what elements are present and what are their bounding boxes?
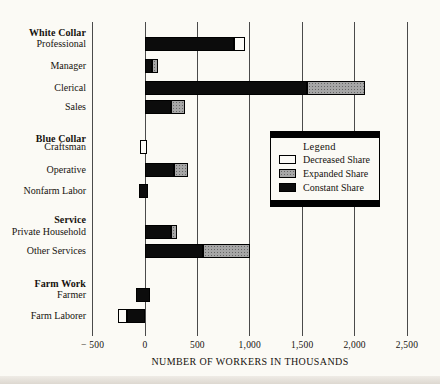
legend-item-expanded: Expanded Share	[279, 167, 379, 180]
bar-segment-constant	[127, 309, 145, 323]
gridline-1000	[249, 22, 250, 336]
legend: Legend Decreased ShareExpanded ShareCons…	[270, 131, 380, 207]
row-label: Sales	[0, 100, 86, 114]
row-label: Craftsman	[0, 140, 86, 154]
row-label: Nonfarm Labor	[0, 184, 86, 198]
x-tick-label-2500: 2,500	[381, 340, 433, 350]
bar-segment-constant	[145, 59, 152, 73]
bar-segment-decreased	[234, 37, 244, 51]
x-tick-label-1000: 1,000	[224, 340, 276, 350]
legend-item-label: Decreased Share	[303, 154, 370, 165]
legend-item-decreased: Decreased Share	[279, 153, 379, 166]
x-tick-label-500: 500	[171, 340, 223, 350]
legend-item-label: Expanded Share	[303, 168, 368, 179]
bar-segment-expanded	[307, 81, 365, 95]
bar-segment-constant	[145, 244, 203, 258]
row-label: Private Household	[0, 225, 86, 239]
bar-segment-expanded	[203, 244, 250, 258]
x-tick-label-0: 0	[119, 340, 171, 350]
expanded-swatch-icon	[279, 169, 296, 178]
bar-segment-expanded	[152, 59, 158, 73]
bar-segment-expanded	[174, 163, 189, 177]
legend-items: Decreased ShareExpanded ShareConstant Sh…	[279, 153, 379, 194]
bar-segment-constant	[145, 81, 307, 95]
legend-item-constant: Constant Share	[279, 181, 379, 194]
bar-segment-constant	[145, 37, 234, 51]
gridline--500	[92, 22, 93, 336]
bar-segment-decreased	[140, 140, 147, 154]
bar-segment-expanded	[171, 225, 177, 239]
bar-segment-constant	[145, 163, 174, 177]
legend-title: Legend	[303, 141, 379, 152]
x-axis-title: NUMBER OF WORKERS IN THOUSANDS	[80, 356, 420, 367]
workers-bar-chart: NUMBER OF WORKERS IN THOUSANDS Legend De…	[0, 0, 440, 384]
legend-item-label: Constant Share	[303, 182, 364, 193]
gridline-2500	[407, 22, 408, 336]
row-label: Operative	[0, 163, 86, 177]
bar-segment-constant	[139, 184, 148, 198]
gridline-500	[197, 22, 198, 336]
bar-segment-constant	[145, 225, 171, 239]
bar-segment-expanded	[171, 100, 185, 114]
row-label: Professional	[0, 37, 86, 51]
bar-segment-constant	[145, 100, 171, 114]
row-label: Other Services	[0, 244, 86, 258]
bar-segment-decreased	[118, 309, 127, 323]
x-tick-label-1500: 1,500	[276, 340, 328, 350]
row-label: Farmer	[0, 288, 86, 302]
bar-segment-constant	[136, 288, 151, 302]
decreased-swatch-icon	[279, 155, 296, 164]
page-edge	[0, 376, 440, 384]
x-tick-label-2000: 2,000	[329, 340, 381, 350]
x-tick-label--500: − 500	[67, 340, 119, 350]
chart-page: NUMBER OF WORKERS IN THOUSANDS Legend De…	[0, 0, 440, 384]
constant-swatch-icon	[279, 183, 296, 192]
row-label: Manager	[0, 59, 86, 73]
row-label: Farm Laborer	[0, 309, 86, 323]
row-label: Clerical	[0, 81, 86, 95]
